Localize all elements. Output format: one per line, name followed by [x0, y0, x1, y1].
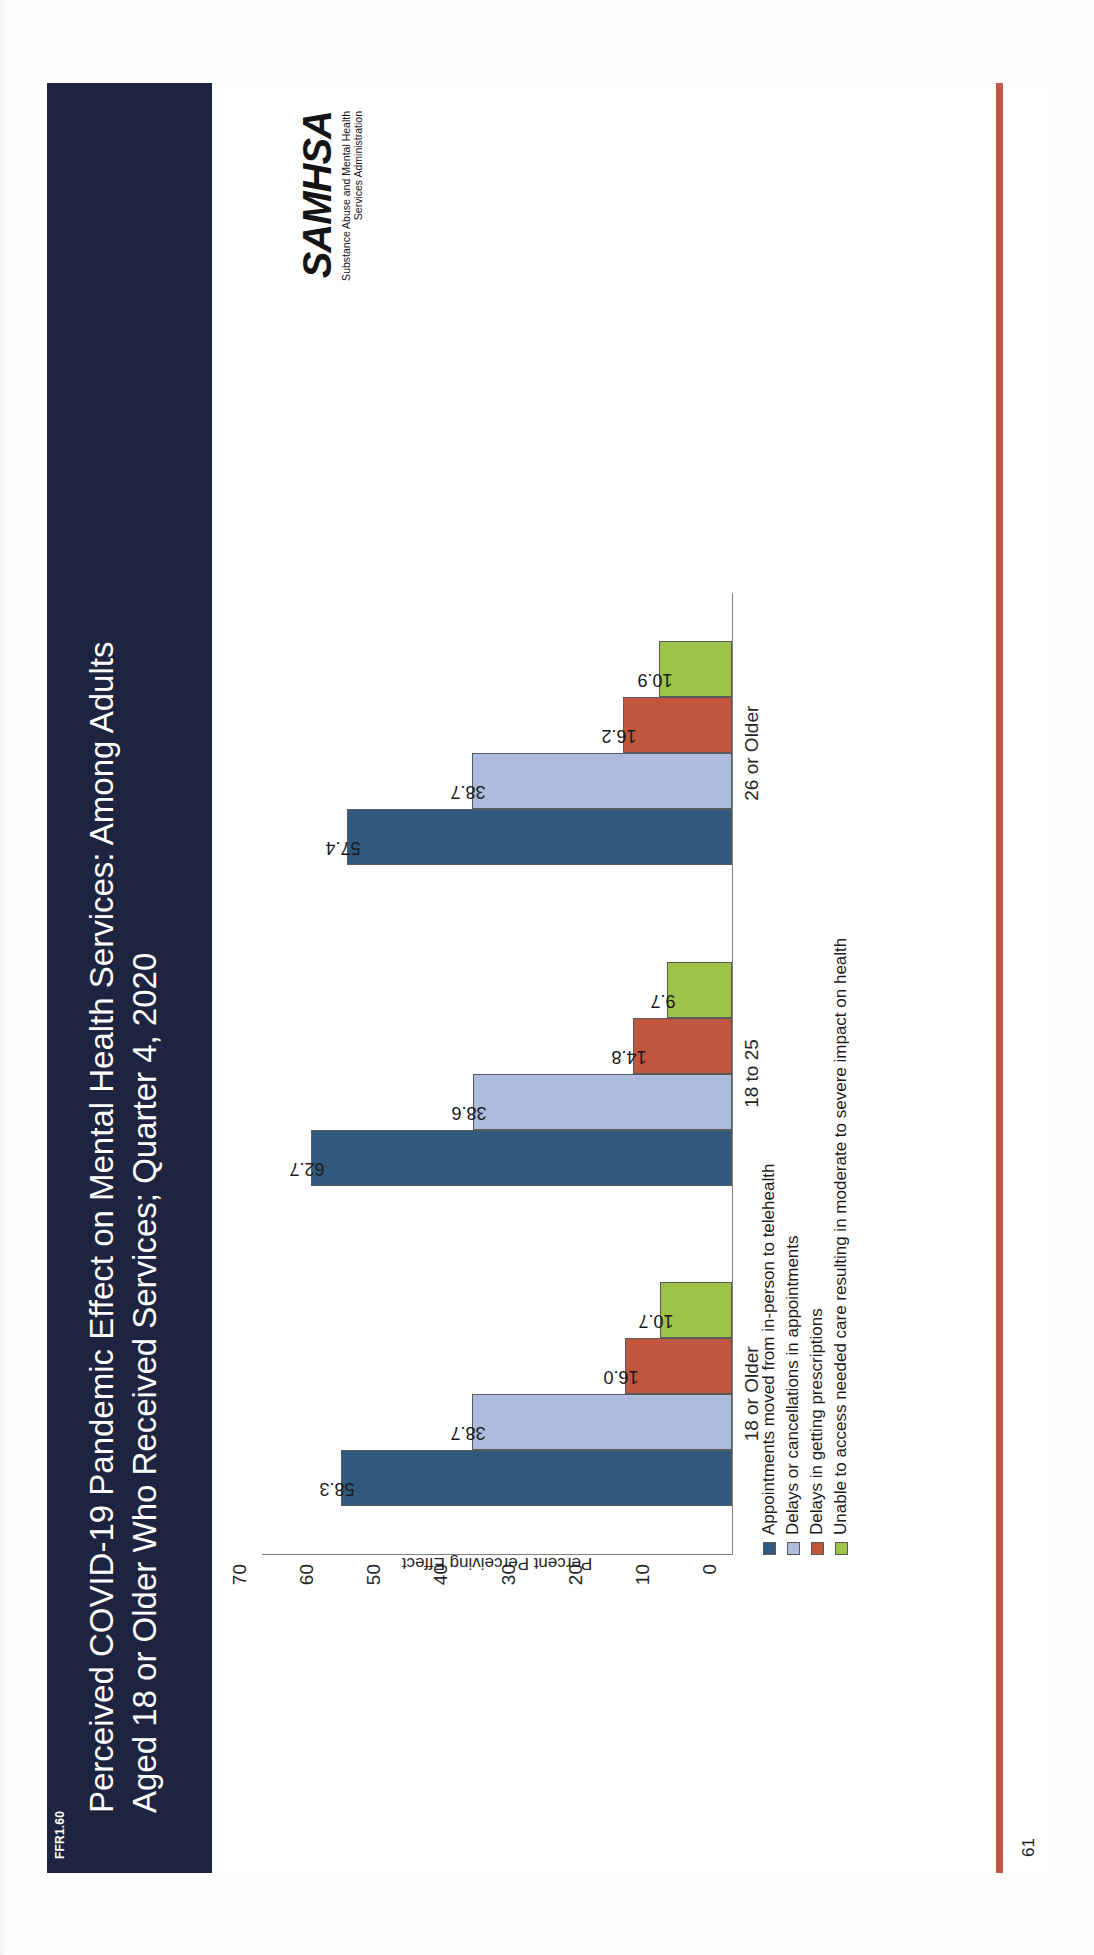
- bar-value-label: 38.7: [451, 781, 486, 802]
- bar-value-label: 38.7: [451, 1421, 486, 1442]
- figure-tag: FFR1.60: [53, 1810, 67, 1858]
- bar: 14.8: [633, 1017, 732, 1073]
- legend-label: Delays in getting prescriptions: [807, 1308, 827, 1535]
- legend-swatch-icon: [787, 1542, 800, 1555]
- y-axis-tick: 50: [363, 1554, 385, 1585]
- bar: 62.7: [311, 1129, 732, 1185]
- y-axis-tick: 0: [699, 1554, 721, 1575]
- legend-item: Delays or cancellations in appointments: [783, 455, 803, 1555]
- slide-canvas: FFR1.60 Perceived COVID-19 Pandemic Effe…: [47, 83, 1047, 1873]
- y-axis-tick: 20: [565, 1554, 587, 1585]
- bar: 38.7: [472, 1393, 732, 1449]
- samhsa-logo: SAMHSA Substance Abuse and Mental Health…: [297, 111, 365, 311]
- y-axis-tick: 70: [229, 1554, 251, 1585]
- samhsa-tagline: Substance Abuse and Mental Health Servic…: [340, 111, 365, 311]
- bar-value-label: 14.8: [611, 1045, 646, 1066]
- bar-group: 62.738.614.89.718 to 25: [262, 913, 732, 1233]
- scan-edge: [0, 0, 8, 1955]
- bar: 38.7: [472, 753, 732, 809]
- samhsa-wordmark: SAMHSA: [297, 111, 337, 311]
- samhsa-tagline-line-1: Substance Abuse and Mental Health: [340, 111, 352, 311]
- bar-value-label: 10.7: [639, 1309, 674, 1330]
- y-axis-tick: 60: [296, 1554, 318, 1585]
- plot-area: Percent Perceiving Effect 70605040302010…: [262, 593, 733, 1555]
- bar: 10.9: [659, 641, 732, 697]
- bar-value-label: 9.7: [650, 989, 675, 1010]
- y-axis-tick: 30: [498, 1554, 520, 1585]
- page-title: Perceived COVID-19 Pandemic Effect on Me…: [81, 153, 167, 1813]
- scanned-page: FFR1.60 Perceived COVID-19 Pandemic Effe…: [0, 0, 1094, 1955]
- page-title-line-1: Perceived COVID-19 Pandemic Effect on Me…: [81, 153, 124, 1813]
- legend-label: Unable to access needed care resulting i…: [831, 937, 851, 1534]
- legend-item: Unable to access needed care resulting i…: [831, 455, 851, 1555]
- bar: 9.7: [667, 961, 732, 1017]
- legend-item: Delays in getting prescriptions: [807, 455, 827, 1555]
- bar-groups: 58.338.716.010.718 or Older62.738.614.89…: [262, 593, 732, 1554]
- bar-value-label: 16.2: [602, 725, 637, 746]
- y-axis-tick: 40: [430, 1554, 452, 1585]
- legend-swatch-icon: [763, 1542, 776, 1555]
- y-axis-tick: 10: [632, 1554, 654, 1585]
- chart-legend: Appointments moved from in-person to tel…: [759, 455, 855, 1555]
- legend-label: Delays or cancellations in appointments: [783, 1235, 803, 1535]
- bar: 38.6: [473, 1073, 732, 1129]
- legend-swatch-icon: [835, 1542, 848, 1555]
- legend-item: Appointments moved from in-person to tel…: [759, 455, 779, 1555]
- bar-value-label: 57.4: [325, 837, 360, 858]
- bar-value-label: 10.9: [637, 669, 672, 690]
- bar-value-label: 58.3: [319, 1477, 354, 1498]
- page-title-line-2: Aged 18 or Older Who Received Services; …: [124, 153, 167, 1813]
- bar: 16.0: [625, 1337, 732, 1393]
- bar-value-label: 62.7: [289, 1157, 324, 1178]
- header-band: FFR1.60 Perceived COVID-19 Pandemic Effe…: [47, 83, 212, 1873]
- bar-value-label: 16.0: [603, 1365, 638, 1386]
- bar-chart: Percent Perceiving Effect 70605040302010…: [252, 593, 812, 1673]
- bar-value-label: 38.6: [451, 1101, 486, 1122]
- bar: 10.7: [660, 1281, 732, 1337]
- bar-group: 58.338.716.010.718 or Older: [262, 1233, 732, 1553]
- legend-label: Appointments moved from in-person to tel…: [759, 1163, 779, 1534]
- bar-group: 57.438.716.210.926 or Older: [262, 593, 732, 913]
- bar: 58.3: [341, 1449, 732, 1505]
- page-number: 61: [1019, 1838, 1039, 1857]
- legend-swatch-icon: [811, 1542, 824, 1555]
- samhsa-tagline-line-2: Services Administration: [352, 111, 364, 311]
- bar: 16.2: [623, 697, 732, 753]
- footer-rule: [996, 83, 1003, 1873]
- bar: 57.4: [347, 809, 732, 865]
